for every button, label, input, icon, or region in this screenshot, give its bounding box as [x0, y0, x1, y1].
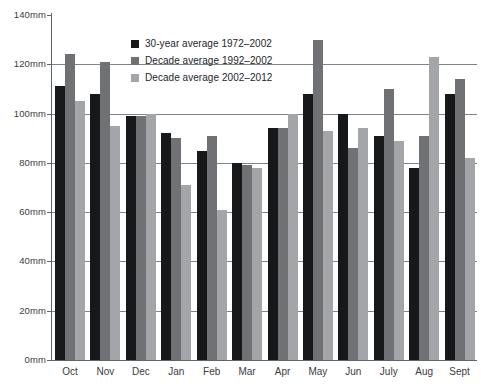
y-axis-tick — [47, 261, 52, 262]
bar-group — [55, 15, 85, 360]
bar — [394, 141, 404, 360]
bar — [171, 138, 181, 360]
y-axis-tick-label: 20mm — [0, 306, 46, 316]
y-axis-tick — [47, 311, 52, 312]
bar — [445, 94, 455, 360]
bar — [126, 116, 136, 360]
bar — [207, 136, 217, 360]
bar — [90, 94, 100, 360]
y-axis-tick-label: 120mm — [0, 59, 46, 69]
legend-label: 30-year average 1972–2002 — [145, 38, 272, 49]
bar — [455, 79, 465, 360]
legend-label: Decade average 2002–2012 — [145, 72, 272, 83]
bar — [358, 128, 368, 360]
y-axis-tick-label: 0mm — [0, 355, 46, 365]
bar — [252, 168, 262, 360]
legend-swatch-decade-1992-2002-icon — [131, 57, 139, 65]
bar — [181, 185, 191, 360]
bar — [110, 126, 120, 360]
y-axis-tick — [47, 360, 52, 361]
y-axis-tick — [47, 163, 52, 164]
bar — [217, 210, 227, 360]
x-axis-line — [51, 360, 477, 361]
bar — [384, 89, 394, 360]
bar — [136, 116, 146, 360]
bar — [303, 94, 313, 360]
y-axis-tick-label: 140mm — [0, 10, 46, 20]
bar — [268, 128, 278, 360]
bar-group — [445, 15, 475, 360]
rainfall-bar-chart: 30-year average 1972–2002 Decade average… — [0, 0, 481, 390]
bar — [348, 148, 358, 360]
bar — [278, 128, 288, 360]
bar — [429, 57, 439, 360]
bar-group — [338, 15, 368, 360]
y-axis-tick-label: 100mm — [0, 109, 46, 119]
bar — [409, 168, 419, 360]
bar — [146, 114, 156, 360]
bar — [288, 114, 298, 360]
bar — [419, 136, 429, 360]
bar — [161, 133, 171, 360]
legend-label: Decade average 1992–2002 — [145, 55, 272, 66]
bar-group — [90, 15, 120, 360]
bar — [465, 158, 475, 360]
y-axis-tick-label: 40mm — [0, 256, 46, 266]
chart-legend: 30-year average 1972–2002 Decade average… — [131, 36, 272, 87]
bar — [65, 54, 75, 360]
bar — [242, 165, 252, 360]
bar — [100, 62, 110, 360]
y-axis-tick-label: 80mm — [0, 158, 46, 168]
y-axis-tick — [47, 15, 52, 16]
legend-item: 30-year average 1972–2002 — [131, 36, 272, 51]
bar — [75, 101, 85, 360]
y-axis-tick — [47, 114, 52, 115]
legend-item: Decade average 2002–2012 — [131, 70, 272, 85]
bar-group — [374, 15, 404, 360]
bar — [323, 131, 333, 360]
legend-swatch-30-year-average-icon — [131, 40, 139, 48]
legend-item: Decade average 1992–2002 — [131, 53, 272, 68]
bar-group — [303, 15, 333, 360]
y-axis-tick — [47, 64, 52, 65]
bar — [338, 114, 348, 360]
bar — [374, 136, 384, 360]
bar — [313, 40, 323, 360]
y-axis-tick — [47, 212, 52, 213]
bar — [55, 86, 65, 360]
bar — [197, 151, 207, 360]
legend-swatch-decade-2002-2012-icon — [131, 74, 139, 82]
x-axis-tick-label: Sept — [439, 366, 481, 378]
bar-group — [409, 15, 439, 360]
y-axis-tick-label: 60mm — [0, 207, 46, 217]
bar — [232, 163, 242, 360]
